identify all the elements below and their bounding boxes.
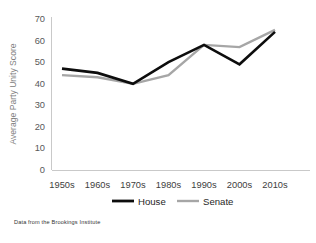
line-chart-svg: Average Party Unity Score 0 10 20 30 40 … [0,0,316,210]
legend-label-senate[interactable]: Senate [203,196,233,207]
y-tick-label: 40 [35,79,45,89]
y-tick-label: 70 [35,14,45,24]
y-axis-label: Average Party Unity Score [8,43,18,144]
y-tick-label: 60 [35,36,45,46]
y-tick-label: 50 [35,57,45,67]
plot-area: Average Party Unity Score 0 10 20 30 40 … [0,0,316,210]
y-tick-label: 10 [35,143,45,153]
legend-label-house[interactable]: House [138,196,166,207]
y-tick-labels: 0 10 20 30 40 50 60 70 [35,14,45,175]
x-tick-labels: 1950s 1960s 1970s 1980s 1990s 2000s 2010… [49,180,288,190]
y-tick-label: 30 [35,100,45,110]
x-tick-label: 2010s [262,180,288,190]
x-tick-label: 1960s [85,180,111,190]
chart-figure: Average Party Unity Score 0 10 20 30 40 … [0,0,316,243]
chart-legend: House Senate [112,196,233,207]
x-tick-label: 1970s [120,180,146,190]
x-tick-label: 1980s [156,180,182,190]
source-caption: Data from the Brookings Institute [14,219,100,225]
y-tick-label: 20 [35,122,45,132]
y-tick-label: 0 [40,165,45,175]
x-tick-label: 1990s [191,180,217,190]
x-tick-label: 1950s [49,180,75,190]
series-line-senate [62,30,275,84]
x-tick-label: 2000s [227,180,253,190]
